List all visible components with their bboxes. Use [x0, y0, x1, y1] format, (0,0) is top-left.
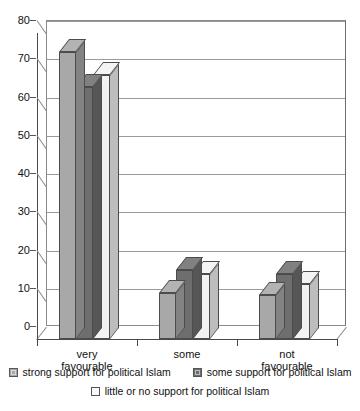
bar-side-face: [210, 262, 219, 339]
x-tick-mark-3: [337, 339, 338, 346]
plot-area: 01020304050607080 veryfavourablesomenotf…: [0, 0, 360, 360]
x-axis-label-line: not: [237, 348, 337, 360]
bar-side-face: [76, 41, 85, 339]
x-tick-mark-2: [237, 339, 238, 346]
x-tick-mark-1: [137, 339, 138, 346]
bar-chart-figure: 01020304050607080 veryfavourablesomenotf…: [0, 0, 360, 411]
bar-front-face: [59, 52, 76, 339]
legend-label-strong: strong support for political Islam: [23, 366, 171, 378]
bars-group: [0, 0, 360, 360]
bar-side-face: [110, 64, 119, 339]
legend-label-some: some support for political Islam: [207, 366, 352, 378]
chart-legend: strong support for political Islam some …: [0, 366, 360, 411]
x-axis-label-1: some: [137, 348, 237, 360]
legend-item-some-support[interactable]: some support for political Islam: [193, 366, 352, 378]
x-axis-label-line: very: [37, 348, 137, 360]
bar-side-face: [93, 75, 102, 339]
bar-front-face: [259, 295, 276, 339]
bar-1-0: [159, 293, 176, 339]
legend-swatch-icon-some: [193, 368, 202, 377]
bar-side-face: [193, 259, 202, 339]
x-tick-mark-0: [37, 339, 38, 346]
legend-row-primary: strong support for political Islam some …: [0, 366, 360, 378]
bar-2-0: [259, 295, 276, 339]
bar-0-0: [59, 52, 76, 339]
legend-item-strong-support[interactable]: strong support for political Islam: [9, 366, 171, 378]
legend-label-little: little or no support for political Islam: [105, 385, 270, 397]
x-axis-label-line: some: [137, 348, 237, 360]
legend-swatch-icon-little: [91, 387, 100, 396]
bar-side-face: [293, 262, 302, 339]
legend-row-secondary: little or no support for political Islam: [0, 385, 360, 397]
bar-front-face: [159, 293, 176, 339]
legend-swatch-icon-strong: [9, 368, 18, 377]
legend-item-little-support[interactable]: little or no support for political Islam: [91, 385, 270, 397]
